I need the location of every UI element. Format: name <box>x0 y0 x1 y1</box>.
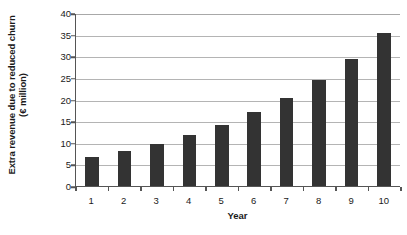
bar-slot <box>270 14 302 186</box>
x-axis-tick-label: 10 <box>368 194 401 208</box>
x-axis-tick-mark <box>173 187 175 191</box>
bar-slot <box>303 14 335 186</box>
y-axis-title: Extra revenue due to reduced churn (€ mi… <box>0 0 36 190</box>
bar-slot <box>108 14 140 186</box>
x-axis-tick-mark <box>335 187 337 191</box>
bar <box>85 157 99 186</box>
x-axis-tick-mark <box>368 187 370 191</box>
x-axis-tick-label: 1 <box>75 194 108 208</box>
x-axis-tick-mark <box>238 187 240 191</box>
bar <box>150 144 164 186</box>
x-axis-tick-label: 7 <box>270 194 303 208</box>
bar-slot <box>335 14 367 186</box>
y-axis-tick-label: 30 <box>41 53 71 63</box>
x-axis-tick-mark <box>400 187 402 191</box>
x-axis-title: Year <box>75 210 400 221</box>
bar <box>280 98 294 186</box>
bar <box>312 80 326 186</box>
x-axis-tick-label: 9 <box>335 194 368 208</box>
bar-slot <box>76 14 108 186</box>
y-axis-tick-label: 40 <box>41 9 71 19</box>
x-axis-tick-mark <box>205 187 207 191</box>
bar <box>118 151 132 186</box>
bar-chart-figure: Extra revenue due to reduced churn (€ mi… <box>0 0 407 235</box>
x-axis-tick-label: 2 <box>108 194 141 208</box>
y-axis-tick-label: 10 <box>41 139 71 149</box>
x-axis-tick-label: 4 <box>173 194 206 208</box>
y-axis-title-line-2: (€ million) <box>18 73 29 117</box>
y-axis-tick-label: 5 <box>41 161 71 171</box>
bar <box>345 59 359 186</box>
bar <box>215 125 229 186</box>
bar-slot <box>368 14 400 186</box>
y-axis-tick-label: 20 <box>41 96 71 106</box>
x-axis-tick-label: 3 <box>140 194 173 208</box>
bar <box>377 33 391 186</box>
bar <box>247 112 261 186</box>
bar-slot <box>206 14 238 186</box>
bars-group <box>76 14 400 186</box>
x-axis-tick-mark <box>140 187 142 191</box>
x-axis-tick-mark <box>75 187 77 191</box>
bar-slot <box>141 14 173 186</box>
bar-slot <box>238 14 270 186</box>
y-axis-tick-label: 25 <box>41 74 71 84</box>
y-axis-tick-label: 15 <box>41 117 71 127</box>
bar-slot <box>173 14 205 186</box>
plot-area <box>75 14 400 187</box>
y-axis-tick-label: 35 <box>41 31 71 41</box>
x-axis-tick-mark <box>270 187 272 191</box>
y-axis-tick-label: 0 <box>41 182 71 192</box>
x-axis-tick-mark <box>108 187 110 191</box>
x-axis-tick-label: 8 <box>303 194 336 208</box>
x-axis-tick-label: 6 <box>238 194 271 208</box>
bar <box>183 135 197 186</box>
x-axis-tick-labels: 12345678910 <box>75 194 400 208</box>
x-axis-tick-mark <box>303 187 305 191</box>
x-axis-tick-label: 5 <box>205 194 238 208</box>
